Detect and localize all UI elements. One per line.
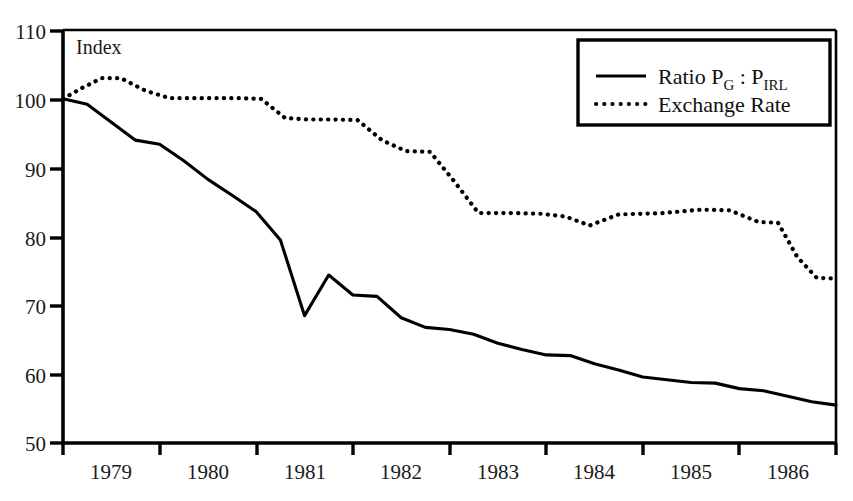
y-tick-label-50: 50 — [25, 432, 46, 456]
legend-box: Ratio PG : PIRL Exchange Rate — [578, 40, 830, 125]
x-tick-label-1981: 1981 — [284, 460, 326, 484]
index-axis-label: Index — [76, 36, 122, 58]
x-tick-label-1985: 1985 — [670, 460, 712, 484]
y-tick-label-110: 110 — [15, 20, 46, 44]
legend-ratio-main: Ratio P — [658, 64, 723, 89]
y-tick-label-100: 100 — [15, 89, 47, 113]
legend-ratio-sub-g: G — [723, 77, 734, 93]
x-tick-label-1979: 1979 — [90, 460, 132, 484]
y-tick-label-80: 80 — [25, 227, 46, 251]
line-chart-figure: 110 100 90 80 70 60 50 1979 1980 1981 19… — [0, 0, 853, 501]
legend-ratio-mid: : P — [734, 64, 763, 89]
x-tick-label-1984: 1984 — [573, 460, 616, 484]
y-axis-tick-labels: 110 100 90 80 70 60 50 — [15, 20, 47, 456]
y-axis-ticks — [50, 31, 63, 443]
y-tick-label-70: 70 — [25, 295, 46, 319]
x-tick-label-1982: 1982 — [380, 460, 422, 484]
legend-ratio-sub-irl: IRL — [764, 77, 788, 93]
y-tick-label-90: 90 — [25, 158, 46, 182]
x-tick-label-1980: 1980 — [187, 460, 229, 484]
x-tick-label-1986: 1986 — [767, 460, 809, 484]
series-line-ratio — [63, 99, 836, 405]
series-layer — [63, 78, 836, 405]
x-tick-label-1983: 1983 — [477, 460, 519, 484]
y-tick-label-60: 60 — [25, 364, 46, 388]
legend-label-exchange-rate: Exchange Rate — [658, 92, 791, 117]
x-axis-tick-labels: 1979 1980 1981 1982 1983 1984 1985 1986 — [90, 460, 809, 484]
chart-container: 110 100 90 80 70 60 50 1979 1980 1981 19… — [0, 0, 853, 501]
